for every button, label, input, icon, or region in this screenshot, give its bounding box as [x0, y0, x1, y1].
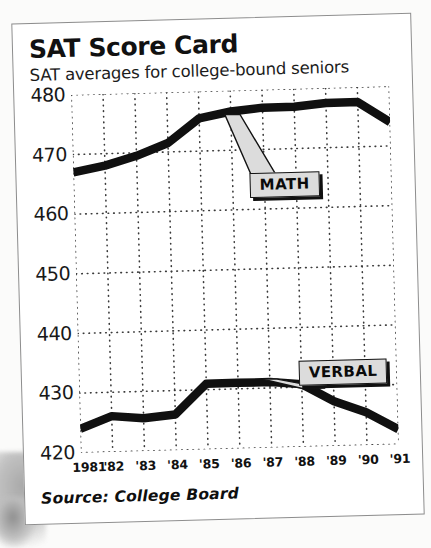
x-axis-tick-labels: 1981'82'83'84'85'86'87'88'89'90'91 [12, 14, 410, 25]
x-axis-tick-83: '83 [135, 458, 156, 474]
x-axis-tick-1981: 1981 [72, 459, 106, 475]
chart-lines-svg [71, 86, 399, 452]
x-axis-tick-90: '90 [358, 452, 379, 468]
x-axis-tick-84: '84 [167, 457, 188, 473]
x-axis-tick-85: '85 [199, 456, 220, 472]
newspaper-clipping-card: SAT Score Card SAT averages for college-… [11, 13, 424, 526]
series-label-math: MATH [249, 171, 319, 198]
x-axis-tick-82: '82 [103, 459, 124, 475]
chart-title: SAT Score Card [29, 29, 239, 64]
y-axis-tick-430: 430 [27, 381, 74, 404]
y-axis-tick-470: 470 [21, 143, 68, 166]
series-line-math [72, 101, 392, 172]
y-axis-tick-420: 420 [29, 441, 76, 464]
x-axis-tick-86: '86 [231, 455, 252, 471]
y-axis-tick-480: 480 [19, 83, 66, 106]
y-axis-tick-460: 460 [22, 202, 69, 225]
x-axis-tick-91: '91 [389, 451, 410, 467]
y-axis-tick-450: 450 [24, 262, 71, 285]
y-axis-tick-440: 440 [25, 322, 72, 345]
x-axis-tick-87: '87 [262, 454, 283, 470]
x-axis-tick-88: '88 [294, 453, 315, 469]
source-attribution: Source: College Board [41, 485, 239, 508]
y-axis-tick-labels: 420430440450460470480 [12, 14, 410, 25]
scan-page-background: SAT Score Card SAT averages for college-… [0, 0, 431, 548]
chart-plot-area [71, 86, 399, 452]
series-label-verbal: VERBAL [299, 358, 388, 385]
x-axis-tick-89: '89 [326, 453, 347, 469]
